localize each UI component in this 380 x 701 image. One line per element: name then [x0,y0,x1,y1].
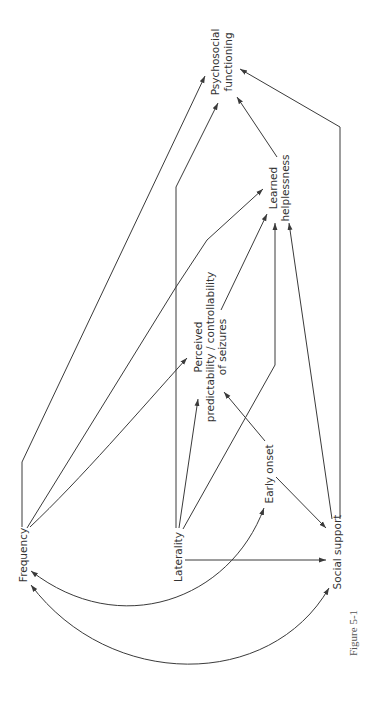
edge-social-frequency-curve [31,585,329,664]
node-psychosocial-line2: functioning [222,32,234,91]
node-laterality: Laterality [172,532,184,582]
node-perceived-line1: Perceived [192,322,204,373]
edge-early-social [276,477,326,528]
edge-frequency-psychosocial [22,76,205,527]
edge-perceived-learned [221,214,267,310]
node-perceived-line3: of seizures [216,319,228,376]
path-diagram: Frequency Laterality Early onset Social … [0,0,380,701]
node-perceived-line2: predictability / controllability [204,272,216,423]
edge-laterality-learned [183,223,275,529]
edge-early-frequency-curve [31,508,264,606]
node-early-onset: Early onset [263,445,275,504]
edge-laterality-perceived [179,399,198,528]
figure-caption: Figure 5-1 [347,610,359,656]
node-frequency: Frequency [17,528,29,582]
node-social-support: Social support [331,515,343,590]
edge-social-learned [289,223,332,519]
edge-frequency-perceived [30,358,187,527]
nodes: Frequency Laterality Early onset Social … [17,29,343,590]
node-learned-line1: Learned [267,167,279,209]
edge-early-perceived [224,392,265,441]
node-psychosocial-line1: Psychosocial [209,29,221,96]
edge-learned-psychosocial [237,97,277,157]
edge-social-psychosocial [240,69,340,519]
node-learned-line2: helplessness [279,154,291,221]
